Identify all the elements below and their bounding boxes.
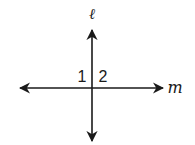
line-l-label: ℓ xyxy=(89,5,95,23)
perpendicular-lines-diagram: ℓ m 1 2 xyxy=(0,0,195,145)
line-m-label: m xyxy=(167,78,182,97)
angle-2-label: 2 xyxy=(99,68,108,85)
angle-1-label: 1 xyxy=(78,68,87,85)
